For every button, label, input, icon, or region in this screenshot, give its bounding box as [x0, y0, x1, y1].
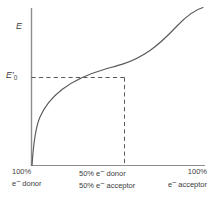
x-tick-left-line-one: 100% — [12, 167, 31, 176]
y-tick-symbol-subscript: 0 — [14, 74, 18, 81]
x-tick-right-suffix: acceptor — [176, 179, 207, 188]
x-axis-tick-label-middle: 50% e− donor 50% e− acceptor — [79, 167, 135, 191]
x-tick-mid-line-two-suffix: acceptor — [104, 181, 135, 190]
x-axis-tick-label-right: 100% e− acceptor — [157, 167, 207, 190]
x-tick-mid-line-one-suffix: donor — [104, 169, 125, 178]
x-tick-left-line-two: e− donor — [12, 179, 42, 188]
x-tick-mid-line-one: 50% e− donor — [79, 169, 126, 178]
x-axis-tick-label-left: 100% e− donor — [12, 167, 42, 190]
x-tick-mid-line-two: 50% e− acceptor — [79, 181, 135, 190]
x-tick-right-line-two: e− acceptor — [157, 178, 207, 190]
x-tick-mid-line-one-prefix: 50% e — [79, 169, 100, 178]
titration-curve — [32, 8, 203, 166]
y-axis-title: E — [16, 22, 22, 31]
x-tick-right-line-one: 100% — [157, 167, 207, 178]
x-tick-mid-line-two-prefix: 50% e — [79, 181, 100, 190]
y-axis-tick-label-e-prime-zero: E′0 — [6, 71, 17, 81]
chart-figure: E E′0 100% e− donor 50% e− donor 50% e− … — [0, 0, 217, 200]
x-tick-left-suffix: donor — [20, 179, 41, 188]
